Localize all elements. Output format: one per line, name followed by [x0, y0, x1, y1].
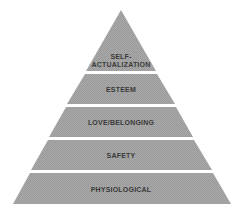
needs-pyramid: SELF- ACTUALIZATION ESTEEM LOVE/BELONGIN… [0, 0, 245, 213]
level-label: SELF- [110, 53, 132, 60]
level-label: PHYSIOLOGICAL [91, 186, 152, 193]
pyramid-level-physiological: PHYSIOLOGICAL [13, 173, 231, 204]
pyramid-level-love-belonging: LOVE/BELONGING [49, 107, 193, 137]
level-label: ESTEEM [106, 86, 136, 93]
level-label: ACTUALIZATION [92, 61, 151, 68]
level-label: SAFETY [107, 152, 136, 159]
level-label: LOVE/BELONGING [88, 119, 155, 126]
pyramid-level-safety: SAFETY [31, 140, 212, 170]
pyramid-level-esteem: ESTEEM [67, 74, 175, 104]
pyramid-level-self-actualization: SELF- ACTUALIZATION [86, 10, 156, 71]
